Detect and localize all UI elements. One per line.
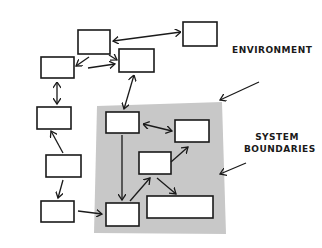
pointer-environment	[220, 82, 259, 100]
arrow-topcenter-uppermid	[109, 55, 117, 60]
arrow-topright-topcenter	[113, 32, 181, 41]
environment-label: ENVIRONMENT	[232, 44, 312, 56]
arrow-upperleft-uppermid	[88, 64, 115, 68]
node-upper-mid	[119, 49, 154, 72]
node-sys-bottom	[106, 203, 139, 226]
diagram-canvas	[0, 0, 322, 248]
node-sys-center	[139, 152, 171, 174]
node-sys-top	[106, 112, 139, 133]
node-top-center	[78, 30, 110, 54]
arrow-leftlower-midleft	[51, 131, 63, 153]
node-sys-wide	[147, 196, 213, 218]
node-upper-left	[41, 57, 74, 78]
system-label-line2: BOUNDARIES	[244, 143, 310, 155]
node-mid-left	[37, 107, 71, 129]
arrow-topcenter-upperleft	[76, 57, 89, 66]
system-boundaries-label: SYSTEM BOUNDARIES	[244, 131, 310, 155]
arrow-uppermid-systop	[124, 75, 134, 109]
node-bottom-left	[41, 201, 74, 222]
system-label-line1: SYSTEM	[244, 131, 310, 143]
arrow-leftlower-bottomleft	[58, 180, 63, 198]
node-sys-right	[175, 120, 209, 142]
node-left-lower	[46, 155, 81, 177]
node-top-right	[183, 22, 217, 46]
